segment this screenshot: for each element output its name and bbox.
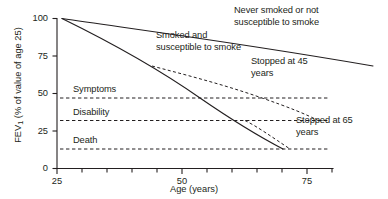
threshold-label-symptoms: Symptoms: [73, 84, 116, 95]
threshold-label-death: Death: [73, 135, 97, 146]
threshold-label-disability: Disability: [73, 107, 109, 118]
y-tick-label-100: 100: [20, 13, 48, 23]
x-axis-ticks: [57, 169, 332, 175]
y-tick-label-0: 0: [20, 163, 48, 173]
y-axis-title: FEV1 (% of value of age 25): [13, 5, 23, 165]
annotation-smoked-susceptible-line1: Smoked and: [156, 30, 207, 41]
y-tick-label-50: 50: [20, 88, 48, 98]
annotation-stopped-65-line1: Stopped at 65: [296, 115, 353, 126]
curve-stopped-at-65: [245, 121, 290, 150]
y-axis-title-main: FEV: [13, 125, 23, 143]
y-axis-title-subscript: 1: [16, 121, 25, 125]
annotation-stopped-65-line2: years: [296, 127, 318, 138]
x-axis-title: Age (years): [0, 184, 388, 194]
annotation-never-smoked-line1: Never smoked or not: [234, 5, 319, 16]
y-axis-ticks: [53, 19, 58, 169]
y-tick-label-25: 25: [20, 126, 48, 136]
fev1-decline-chart: 100 75 50 25 0 25 50 75 FEV1 (% of value…: [0, 0, 388, 199]
annotation-never-smoked-line2: susceptible to smoke: [234, 17, 319, 28]
y-axis-title-rest: (% of value of age 25): [13, 27, 23, 121]
annotation-smoked-susceptible-line2: susceptible to smoke: [156, 42, 241, 53]
curve-stopped-at-45: [152, 66, 321, 122]
annotation-stopped-45-line1: Stopped at 45: [251, 56, 308, 67]
y-tick-label-75: 75: [20, 51, 48, 61]
annotation-stopped-45-line2: years: [251, 68, 273, 79]
